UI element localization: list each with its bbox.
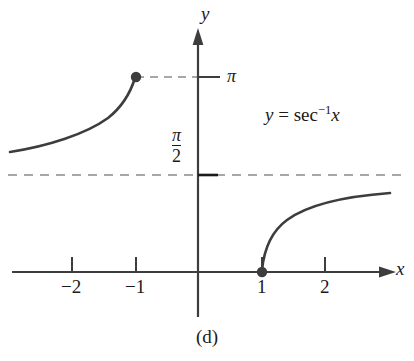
equation-function: sec — [294, 104, 318, 125]
pi-half-denominator: 2 — [172, 145, 181, 166]
equation-exponent: −1 — [318, 103, 331, 117]
curve-left-branch — [10, 78, 135, 152]
equation-equals: = — [278, 104, 289, 125]
equation-argument: x — [331, 104, 339, 125]
x-tick-label-2: 2 — [320, 277, 330, 296]
equation-annotation: y = sec−1x — [265, 104, 340, 124]
y-tick-label-pi-half: π 2 — [172, 126, 181, 165]
x-tick-label-neg2: −2 — [61, 277, 81, 296]
point-marker-neg1-pi — [131, 72, 141, 82]
graph-plot — [0, 0, 414, 361]
pi-half-numerator: π — [172, 126, 181, 145]
x-tick-label-neg1: −1 — [125, 277, 145, 296]
figure-caption: (d) — [0, 326, 414, 348]
x-axis-arrowhead — [379, 267, 396, 278]
x-tick-label-1: 1 — [257, 277, 267, 296]
y-axis-label: y — [201, 4, 209, 23]
x-axis-label: x — [396, 259, 404, 278]
y-tick-label-pi: π — [227, 67, 236, 85]
equation-lhs: y — [265, 104, 273, 125]
y-axis-arrowhead — [193, 28, 204, 45]
figure-container: y x −2 −1 1 2 π π 2 y = sec−1x (d) — [0, 0, 414, 361]
